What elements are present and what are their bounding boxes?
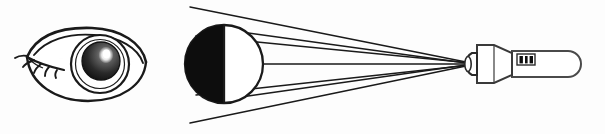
- instrument[interactable]: [465, 45, 581, 83]
- instrument-switch-bar-mid: [525, 56, 528, 63]
- pupil-highlight-core: [103, 50, 110, 59]
- schematic-globe: [185, 25, 263, 103]
- instrument-switch-bar-left: [520, 56, 523, 63]
- ray-diagram-svg: [0, 0, 605, 134]
- figure-canvas: [0, 0, 605, 134]
- ray-globe-upper: [241, 32, 466, 63]
- instrument-switch-bar-right: [530, 56, 533, 63]
- instrument-tip-nose: [465, 57, 471, 72]
- eye-illustration: [15, 28, 146, 101]
